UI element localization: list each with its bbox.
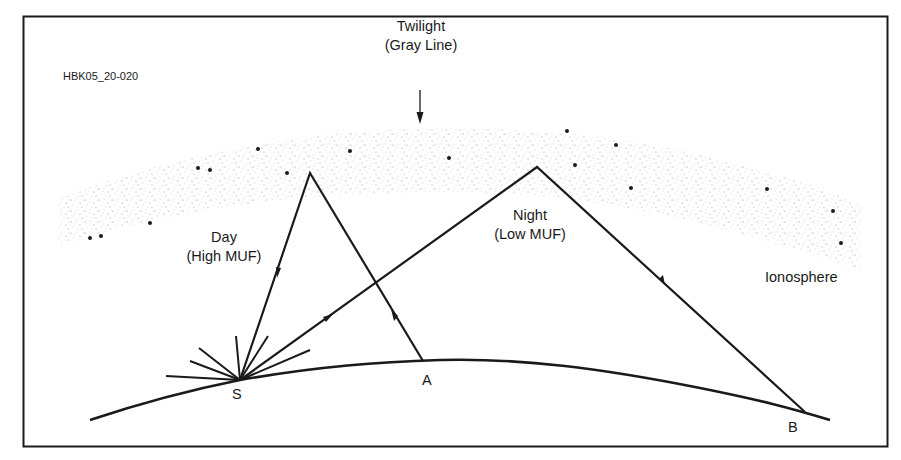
twilight-title: Twilight [370,17,472,36]
ionosphere-label: Ionosphere [765,268,838,287]
day-propagation-path [240,173,423,380]
day-title: Day [178,228,270,247]
night-title: Night [480,206,580,225]
twilight-subtitle: (Gray Line) [370,36,472,55]
point-s-label: S [232,385,242,404]
earth-surface [90,360,830,420]
day-subtitle: (High MUF) [178,247,270,266]
point-b-label: B [788,418,798,437]
arrow-down-icon [276,267,281,278]
arrow-up-right-icon [323,314,333,322]
figure-id-label: HBK05_20-020 [63,67,138,86]
night-subtitle: (Low MUF) [480,225,580,244]
night-label: Night (Low MUF) [480,206,580,244]
diagram-frame: HBK05_20-020 Twilight (Gray Line) Day (H… [0,0,901,460]
day-label: Day (High MUF) [178,228,270,266]
twilight-label: Twilight (Gray Line) [370,17,472,55]
point-a-label: A [422,371,432,390]
twilight-arrow-icon [417,90,424,124]
